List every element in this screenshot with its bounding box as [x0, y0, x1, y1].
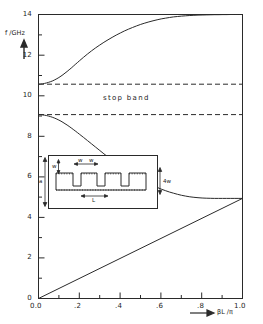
y-tick-label-6: 6 — [12, 172, 32, 180]
x-tick-label-1-0: 1.0 — [234, 302, 246, 310]
light-line-curve — [39, 198, 243, 298]
inset-label-a: a — [39, 178, 42, 184]
y-tick-label-12: 12 — [8, 51, 32, 59]
plot-canvas — [0, 0, 263, 324]
x-axis-title-arrow — [190, 310, 214, 316]
x-tick-label-0-2: .2 — [74, 302, 81, 310]
y-tick-label-2: 2 — [12, 253, 32, 261]
y-tick-label-0: 0 — [12, 294, 32, 302]
y-tick-label-4: 4 — [12, 213, 32, 221]
y-tick-label-8: 8 — [12, 132, 32, 140]
inset-label-4w: 4w — [163, 178, 171, 184]
x-axis-ticks — [39, 293, 243, 299]
y-axis-title: f /GHz — [5, 29, 25, 37]
inset-label-w-top-1: w — [78, 157, 83, 163]
y-axis-ticks — [39, 15, 45, 299]
inset-diagram — [43, 156, 162, 209]
x-tick-label-0-4: .4 — [115, 302, 122, 310]
inset-label-w-left: w — [52, 163, 57, 169]
inset-label-w-top-2: w — [89, 157, 94, 163]
upper-branch-curve — [39, 15, 243, 85]
x-tick-label-0-8: .8 — [197, 302, 204, 310]
x-axis-title: βL /π — [217, 308, 233, 316]
inset-dim-a — [43, 158, 47, 207]
y-tick-label-10: 10 — [8, 91, 32, 99]
y-tick-label-14: 14 — [8, 10, 32, 18]
inset-dim-4w — [158, 168, 161, 195]
figure-panel: 0 2 4 6 8 10 12 14 0.0 .2 .4 .6 .8 1.0 f… — [0, 0, 263, 324]
x-tick-label-0-6: .6 — [156, 302, 163, 310]
x-tick-label-0: 0.0 — [30, 302, 42, 310]
stop-band-annotation: stop band — [103, 94, 150, 102]
inset-label-L: L — [92, 197, 95, 203]
